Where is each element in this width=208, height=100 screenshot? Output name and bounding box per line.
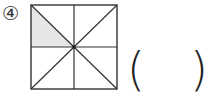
answer-close-paren: ) [190,44,208,94]
answer-open-paren: ( [127,44,145,94]
center-point [72,45,76,49]
divided-square-figure [0,0,208,100]
